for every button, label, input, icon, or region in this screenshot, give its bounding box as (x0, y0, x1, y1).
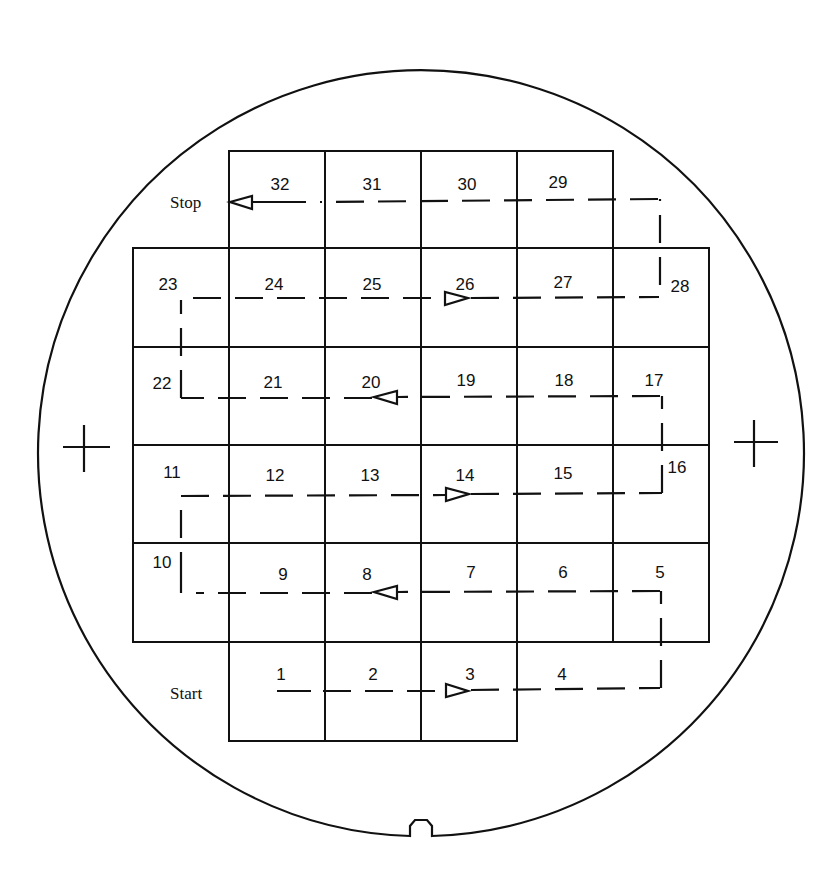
left-crosshair-icon (63, 425, 110, 472)
die-label: 32 (271, 175, 290, 194)
die-label: 11 (163, 463, 181, 482)
die-label: 10 (153, 553, 172, 572)
right-crosshair-icon (734, 420, 778, 467)
die-label: 14 (456, 466, 475, 485)
die-label: 18 (555, 371, 574, 390)
die-label: 4 (557, 665, 566, 684)
die-label: 6 (558, 563, 567, 582)
die-label: 17 (645, 371, 664, 390)
arrow-left-icon (230, 196, 252, 209)
die-label: 8 (362, 565, 371, 584)
die-label: 25 (363, 275, 382, 294)
die-label: 2 (368, 665, 377, 684)
arrow-left-icon (374, 586, 397, 599)
die-label: 27 (554, 273, 573, 292)
die-label: 30 (458, 175, 477, 194)
die-label: 13 (361, 466, 380, 485)
stop-label: Stop (170, 193, 201, 212)
die-label: 29 (549, 173, 568, 192)
die-label: 21 (264, 373, 283, 392)
arrow-right-icon (446, 684, 468, 697)
die-label: 9 (278, 565, 287, 584)
die-label: 24 (265, 275, 284, 294)
arrow-left-icon (374, 391, 397, 404)
arrow-right-icon (446, 488, 469, 501)
die-label: 26 (456, 275, 475, 294)
wafer-probe-map: Stop Start 1 2 3 4 5 6 7 8 9 10 11 12 13… (0, 0, 830, 871)
die-label: 28 (671, 277, 690, 296)
die-label: 20 (362, 373, 381, 392)
die-label: 1 (276, 665, 285, 684)
die-label: 3 (465, 665, 474, 684)
die-label: 15 (554, 464, 573, 483)
die-label: 31 (363, 175, 382, 194)
die-label: 16 (668, 458, 687, 477)
die-label: 5 (655, 563, 664, 582)
die-label: 7 (466, 563, 475, 582)
die-label: 19 (457, 371, 476, 390)
die-label: 12 (266, 466, 285, 485)
die-label: 23 (159, 275, 178, 294)
start-label: Start (170, 684, 202, 703)
die-grid (133, 151, 709, 741)
die-label: 22 (153, 374, 172, 393)
